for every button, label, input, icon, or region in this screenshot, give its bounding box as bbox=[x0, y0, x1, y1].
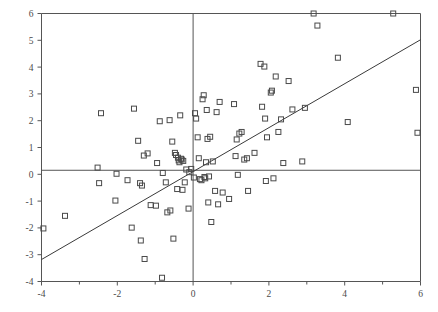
x-tick-label: 0 bbox=[191, 289, 196, 299]
data-point-marker bbox=[286, 79, 291, 84]
x-tick-label: 2 bbox=[267, 289, 272, 299]
regression-line bbox=[42, 40, 421, 260]
data-point-marker bbox=[153, 203, 158, 208]
data-point-marker bbox=[263, 116, 268, 121]
data-point-marker bbox=[95, 165, 100, 170]
data-point-marker bbox=[204, 107, 209, 112]
scatter-plot-figure: -4-3-2-10123456-4-20246 bbox=[0, 0, 438, 312]
data-point-marker bbox=[186, 206, 191, 211]
x-tick-label: -2 bbox=[113, 289, 121, 299]
data-point-marker bbox=[217, 99, 222, 104]
data-point-marker bbox=[99, 111, 104, 116]
data-point-marker bbox=[167, 118, 172, 123]
data-point-marker bbox=[196, 156, 201, 161]
data-point-marker bbox=[273, 74, 278, 79]
data-point-marker bbox=[413, 87, 418, 92]
data-point-marker bbox=[260, 104, 265, 109]
data-point-marker bbox=[233, 154, 238, 159]
data-point-marker bbox=[63, 213, 68, 218]
data-point-marker bbox=[148, 203, 153, 208]
x-tick-label: 4 bbox=[342, 289, 347, 299]
data-point-marker bbox=[125, 178, 130, 183]
y-tick-label: 5 bbox=[29, 36, 34, 46]
data-point-marker bbox=[131, 106, 136, 111]
data-point-marker bbox=[180, 187, 185, 192]
data-point-marker bbox=[129, 225, 134, 230]
y-tick-label: 6 bbox=[29, 9, 34, 19]
data-point-marker bbox=[142, 256, 147, 261]
y-tick-label: 1 bbox=[29, 143, 34, 153]
data-point-marker bbox=[216, 202, 221, 207]
data-point-marker bbox=[220, 190, 225, 195]
x-tick-label: -4 bbox=[38, 289, 46, 299]
data-point-marker bbox=[157, 119, 162, 124]
data-point-marker bbox=[171, 236, 176, 241]
y-tick-label: 0 bbox=[29, 170, 34, 180]
data-point-marker bbox=[415, 130, 420, 135]
data-point-marker bbox=[160, 170, 165, 175]
data-point-marker bbox=[206, 200, 211, 205]
data-point-marker bbox=[170, 139, 175, 144]
data-point-marker bbox=[315, 23, 320, 28]
data-point-marker bbox=[175, 187, 180, 192]
data-point-marker bbox=[163, 180, 168, 185]
y-tick-label: 2 bbox=[29, 116, 34, 126]
y-tick-label: 3 bbox=[29, 89, 34, 99]
y-tick-label: -2 bbox=[26, 223, 34, 233]
data-point-marker bbox=[232, 102, 237, 107]
data-point-marker bbox=[271, 176, 276, 181]
data-point-marker bbox=[263, 179, 268, 184]
data-point-marker bbox=[213, 188, 218, 193]
data-point-marker bbox=[290, 107, 295, 112]
data-point-marker bbox=[155, 161, 160, 166]
data-point-marker bbox=[194, 116, 199, 121]
data-point-marker bbox=[182, 180, 187, 185]
data-point-marker bbox=[335, 55, 340, 60]
data-point-marker bbox=[265, 135, 270, 140]
data-point-marker bbox=[97, 181, 102, 186]
x-tick-label: 6 bbox=[418, 289, 423, 299]
data-point-marker bbox=[113, 198, 118, 203]
data-point-marker bbox=[209, 220, 214, 225]
y-tick-label: 4 bbox=[29, 63, 34, 73]
cropped-caption-text bbox=[224, 300, 438, 311]
data-point-marker bbox=[276, 129, 281, 134]
data-point-marker bbox=[165, 210, 170, 215]
data-point-marker bbox=[178, 113, 183, 118]
y-tick-label: -1 bbox=[26, 197, 34, 207]
data-point-marker bbox=[227, 196, 232, 201]
data-point-marker bbox=[281, 161, 286, 166]
plot-canvas: -4-3-2-10123456-4-20246 bbox=[0, 0, 438, 312]
data-point-marker bbox=[136, 138, 141, 143]
data-point-marker bbox=[191, 175, 196, 180]
y-tick-label: -4 bbox=[26, 277, 34, 287]
data-point-marker bbox=[160, 275, 165, 280]
data-point-marker bbox=[234, 137, 239, 142]
data-point-marker bbox=[114, 171, 119, 176]
data-point-marker bbox=[195, 135, 200, 140]
data-point-marker bbox=[345, 120, 350, 125]
data-point-marker bbox=[300, 159, 305, 164]
data-points-group bbox=[41, 11, 420, 280]
data-point-marker bbox=[168, 208, 173, 213]
data-point-marker bbox=[138, 238, 143, 243]
y-tick-label: -3 bbox=[26, 250, 34, 260]
data-point-marker bbox=[246, 188, 251, 193]
data-point-marker bbox=[235, 172, 240, 177]
data-point-marker bbox=[214, 110, 219, 115]
data-point-marker bbox=[252, 150, 257, 155]
